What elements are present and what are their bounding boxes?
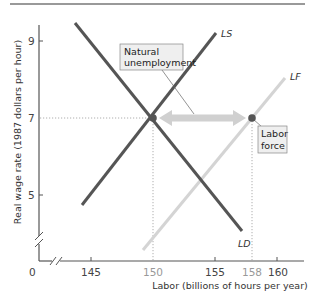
y-tick-label-5: 5	[28, 189, 35, 201]
natural-unemployment-callout: Natural unemployment	[120, 44, 196, 70]
natural-unemployment-label-line1: Natural	[124, 46, 159, 57]
labor-force-point	[248, 114, 256, 122]
reference-lines	[40, 118, 252, 261]
labor-force-label-line2: force	[261, 140, 285, 151]
ld-label: LD	[238, 238, 251, 249]
x-axis-title: Labor (billions of hours per year)	[152, 280, 308, 291]
y-tick-label-7: 7	[28, 112, 35, 124]
x-tick-label-145: 145	[81, 266, 101, 278]
x-tick-label-160: 160	[268, 266, 288, 278]
y-axis-title: Real wage rate (1987 dollars per hour)	[12, 40, 23, 224]
x-tick-label-155: 155	[205, 266, 225, 278]
labor-market-chart: Natural unemployment Labor force LS LF L…	[0, 0, 318, 296]
natural-unemployment-arrow	[159, 110, 246, 126]
x-tick-label-150: 150	[143, 266, 163, 278]
y-tick-label-9: 9	[28, 35, 35, 47]
natural-unemployment-leader	[162, 70, 194, 114]
labor-force-label-line1: Labor	[261, 128, 288, 139]
labor-force-callout: Labor force	[258, 126, 288, 153]
x-tick-label-0: 0	[29, 266, 36, 278]
equilibrium-point	[149, 114, 157, 122]
x-tick-label-158: 158	[242, 266, 262, 278]
arrow-head-right	[233, 110, 246, 126]
lf-curve	[143, 78, 285, 250]
ls-label: LS	[221, 28, 232, 39]
lf-label: LF	[290, 71, 301, 82]
arrow-head-left	[159, 110, 172, 126]
natural-unemployment-label-line2: unemployment	[124, 57, 196, 68]
